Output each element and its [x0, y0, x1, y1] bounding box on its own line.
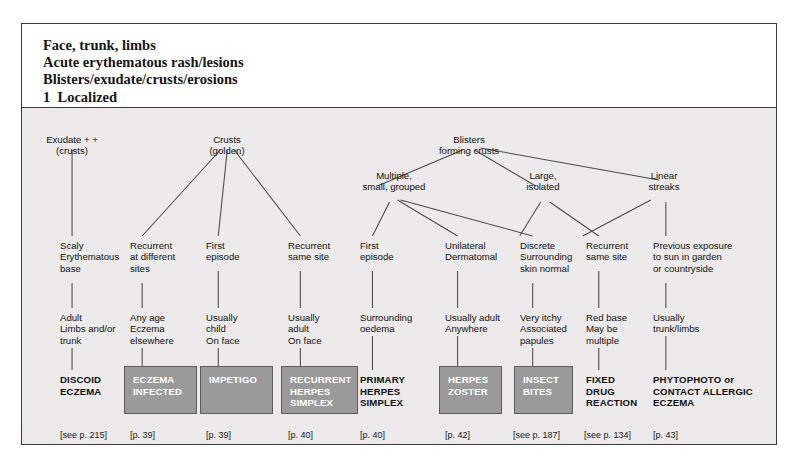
page-ref-col-8: [see p. 134]: [584, 430, 631, 440]
diagnosis-herpes-zoster: HERPES ZOSTER: [439, 366, 502, 414]
page-ref-col-7: [see p. 187]: [513, 430, 560, 440]
page-ref-col-4: [p. 40]: [288, 430, 313, 440]
detail-col-3: Usually child On face: [206, 312, 240, 346]
diagnosis-primary-herpes-simplex: PRIMARY HERPES SIMPLEX: [360, 374, 405, 409]
detail-col-2: Any age Eczema elsewhere: [130, 312, 174, 346]
feature-col-1: Scaly Erythematous base: [60, 240, 119, 274]
detail-col-6: Usually adult Anywhere: [445, 312, 500, 335]
diagnosis-recurrent-herpes-simplex: RECURRENT HERPES SIMPLEX: [281, 366, 358, 414]
node-linear-streaks: Linear streaks: [649, 170, 680, 193]
node-large-isolated: Large, isolated: [526, 170, 559, 193]
feature-col-6: Unilateral Dermatomal: [445, 240, 497, 263]
feature-col-9: Previous exposure to sun in garden or co…: [653, 240, 732, 274]
feature-col-8: Recurrent same site: [586, 240, 628, 263]
diagnosis-insect-bites: INSECT BITES: [514, 366, 573, 414]
detail-col-4: Usually adult On face: [288, 312, 322, 346]
page-ref-col-1: [see p. 215]: [60, 430, 107, 440]
feature-col-3: First episode: [206, 240, 240, 263]
feature-col-7: Discrete Surrounding skin normal: [520, 240, 572, 274]
feature-col-2: Recurrent at different sites: [130, 240, 175, 274]
header-title-block: Face, trunk, limbs Acute erythematous ra…: [43, 37, 244, 106]
detail-col-8: Red base May be multiple: [586, 312, 627, 346]
node-blisters-forming-crusts: Blisters forming crusts: [439, 134, 499, 157]
flowchart-frame: Face, trunk, limbs Acute erythematous ra…: [21, 23, 777, 445]
detail-col-1: Adult Limbs and/or trunk: [60, 312, 115, 346]
chart-header: Face, trunk, limbs Acute erythematous ra…: [22, 24, 776, 108]
header-line-3: Blisters/exudate/crusts/erosions: [43, 71, 244, 88]
diagnosis-eczema-infected: ECZEMA INFECTED: [124, 366, 197, 414]
diagnosis-impetigo: IMPETIGO: [200, 366, 273, 414]
page-ref-col-2: [p. 39]: [130, 430, 155, 440]
detail-col-7: Very itchy Associated papules: [520, 312, 567, 346]
flowchart-body: Exudate + + (crusts) Crusts (golden) Bli…: [22, 108, 776, 444]
page-ref-col-5: [p. 40]: [360, 430, 385, 440]
diagnosis-fixed-drug-reaction: FIXED DRUG REACTION: [586, 374, 637, 409]
diagnosis-phytophoto-contact-allergic-eczema: PHYTOPHOTO or CONTACT ALLERGIC ECZEMA: [653, 374, 753, 409]
header-line-2: Acute erythematous rash/lesions: [43, 54, 244, 71]
detail-col-9: Usually trunk/limbs: [653, 312, 699, 335]
diagnosis-discoid-eczema: DISCOID ECZEMA: [60, 374, 101, 397]
page-ref-col-9: [p. 43]: [653, 430, 678, 440]
node-multiple-small-grouped: Multiple, small, grouped: [363, 170, 426, 193]
page-ref-col-6: [p. 42]: [445, 430, 470, 440]
node-exudate: Exudate + + (crusts): [46, 134, 98, 157]
header-line-4: 1 Localized: [43, 89, 244, 106]
node-crusts-golden: Crusts (golden): [209, 134, 244, 157]
page-ref-col-3: [p. 39]: [206, 430, 231, 440]
header-line-1: Face, trunk, limbs: [43, 37, 244, 54]
feature-col-4: Recurrent same site: [288, 240, 330, 263]
detail-col-5: Surrounding oedema: [360, 312, 412, 335]
feature-col-5: First episode: [360, 240, 394, 263]
